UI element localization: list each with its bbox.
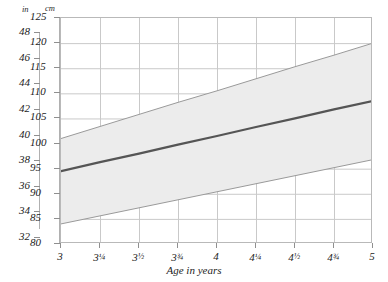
x-tick-mark bbox=[372, 243, 373, 248]
x-tick-mark bbox=[333, 243, 334, 248]
cm-tick-label: 90 bbox=[30, 187, 41, 198]
cm-axis: 12512011511010510095908580 bbox=[0, 0, 60, 282]
x-tick-label: 4¾ bbox=[327, 250, 339, 263]
plot-area bbox=[60, 17, 372, 243]
cm-tick-label: 120 bbox=[30, 36, 47, 47]
growth-chart: in cm 484644424038363432 125120115110105… bbox=[0, 0, 388, 282]
x-tick-mark bbox=[177, 243, 178, 248]
x-tick-mark bbox=[60, 243, 61, 248]
cm-tick-label: 85 bbox=[30, 212, 41, 223]
cm-tick-label: 125 bbox=[30, 11, 47, 22]
cm-tick-label: 110 bbox=[30, 86, 46, 97]
x-tick-label: 4½ bbox=[288, 250, 300, 263]
cm-tick-label: 95 bbox=[30, 162, 41, 173]
x-tick-label: 3¼ bbox=[93, 250, 105, 263]
x-tick-label: 4 bbox=[213, 250, 219, 262]
cm-tick-label: 115 bbox=[30, 61, 46, 72]
x-tick-label: 4¼ bbox=[249, 250, 261, 263]
cm-tick-label: 105 bbox=[30, 111, 47, 122]
x-tick-label: 3¾ bbox=[171, 250, 183, 263]
x-tick-mark bbox=[99, 243, 100, 248]
reference-band bbox=[61, 43, 372, 224]
x-tick-mark bbox=[216, 243, 217, 248]
x-tick-mark bbox=[294, 243, 295, 248]
x-tick-label: 3½ bbox=[132, 250, 144, 263]
cm-tick-label: 100 bbox=[30, 137, 47, 148]
plot-svg bbox=[61, 18, 372, 243]
x-tick-mark bbox=[138, 243, 139, 248]
x-tick-mark bbox=[255, 243, 256, 248]
x-axis-title: Age in years bbox=[0, 264, 388, 276]
cm-tick-label: 80 bbox=[30, 237, 41, 248]
chart-title bbox=[86, 0, 306, 5]
x-tick-label: 3 bbox=[57, 250, 63, 262]
x-tick-label: 5 bbox=[369, 250, 375, 262]
